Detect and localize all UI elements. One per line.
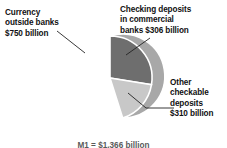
pie-chart-figure: Currency outside banks $750 billion Chec… xyxy=(0,0,227,148)
callout-label-other-checkable-deposits: Other checkable deposits $310 billion xyxy=(170,78,226,120)
callout-label-checking-deposits: Checking deposits in commercial banks $3… xyxy=(120,5,224,36)
callout-label-currency-outside-banks: Currency outside banks $750 billion xyxy=(5,8,101,39)
chart-caption-clipped: M1 = $1,366 billion xyxy=(0,141,227,148)
